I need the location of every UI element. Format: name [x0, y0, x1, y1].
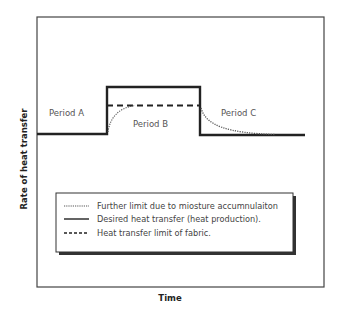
legend-label-fabric: Heat transfer limit of fabric. — [97, 228, 211, 238]
period-c-label: Period C — [221, 108, 256, 118]
legend-label-moisture: Further limit due to miosture accumnulai… — [97, 201, 278, 211]
moisture-limit-rise-curve — [108, 106, 135, 133]
legend: Further limit due to miosture accumnulai… — [56, 193, 296, 255]
period-a-label: Period A — [49, 108, 84, 118]
legend-label-desired: Desired heat transfer (heat production). — [97, 214, 261, 224]
heat-transfer-diagram: Period A Period B Period C Rate of heat … — [0, 0, 339, 309]
period-b-label: Period B — [133, 119, 168, 129]
y-axis-label: Rate of heat transfer — [19, 108, 29, 210]
x-axis-label: Time — [158, 293, 182, 303]
